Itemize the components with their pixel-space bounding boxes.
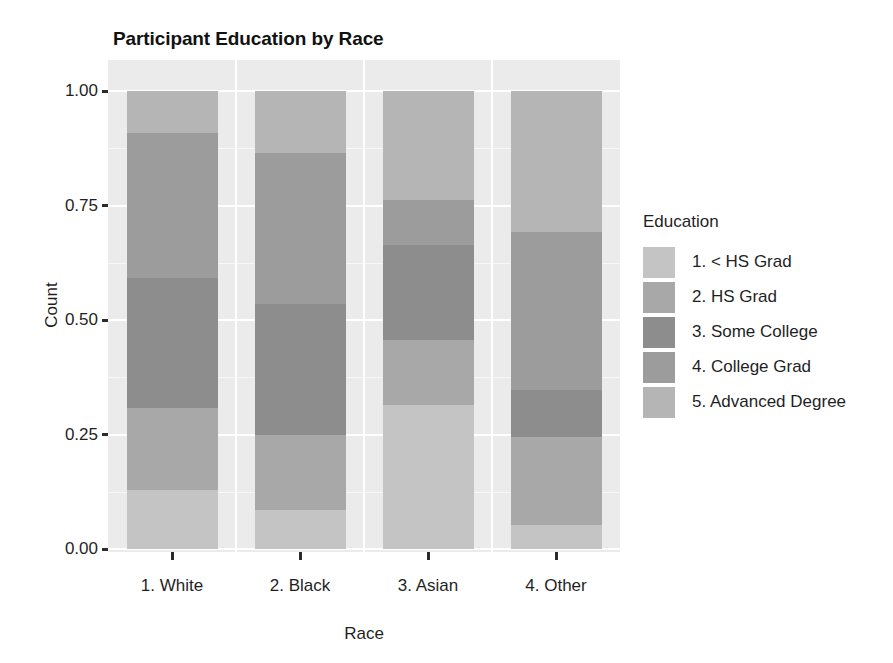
legend-swatch [643, 352, 675, 383]
legend-swatch [643, 247, 675, 278]
bar-stack[interactable] [511, 91, 602, 549]
legend-item[interactable]: 3. Some College [643, 316, 883, 348]
bar-segment[interactable] [127, 490, 218, 549]
y-tick-label: 1.00 [38, 82, 98, 99]
x-tick-mark [171, 552, 174, 560]
gridline-vertical [235, 60, 237, 552]
bar-segment[interactable] [511, 525, 602, 549]
legend-swatch [643, 387, 675, 418]
y-tick-label: 0.50 [38, 311, 98, 328]
bar-segment[interactable] [255, 510, 346, 549]
bar-segment[interactable] [127, 408, 218, 490]
bar-segment[interactable] [127, 278, 218, 408]
bar-stack[interactable] [255, 91, 346, 549]
y-axis-title: Count [42, 245, 62, 365]
bar-segment[interactable] [511, 232, 602, 390]
x-tick-label: 3. Asian [358, 576, 498, 596]
plot-area [108, 60, 620, 552]
bar-segment[interactable] [511, 437, 602, 525]
bar-segment[interactable] [383, 91, 474, 200]
legend-item[interactable]: 1. < HS Grad [643, 246, 883, 278]
bar-segment[interactable] [383, 200, 474, 245]
bar-segment[interactable] [255, 153, 346, 304]
x-axis-title: Race [108, 624, 620, 644]
legend-label: 3. Some College [692, 322, 818, 342]
bar-segment[interactable] [511, 390, 602, 437]
legend-swatch [643, 317, 675, 348]
bar-segment[interactable] [255, 304, 346, 435]
gridline-vertical [491, 60, 493, 552]
bar-segment[interactable] [383, 405, 474, 549]
bar-segment[interactable] [255, 435, 346, 510]
y-tick-label: 0.00 [38, 540, 98, 557]
x-tick-label: 1. White [102, 576, 242, 596]
chart-figure: Participant Education by Race Count Race… [0, 0, 893, 663]
legend-label: 2. HS Grad [692, 287, 777, 307]
legend-label: 1. < HS Grad [692, 252, 792, 272]
bar-segment[interactable] [127, 91, 218, 133]
y-tick-label: 0.75 [38, 197, 98, 214]
legend-item[interactable]: 4. College Grad [643, 351, 883, 383]
bar-segment[interactable] [127, 133, 218, 278]
bar-segment[interactable] [383, 340, 474, 405]
bar-segment[interactable] [383, 245, 474, 340]
bar-stack[interactable] [383, 91, 474, 549]
legend-label: 4. College Grad [692, 357, 811, 377]
page-title: Participant Education by Race [113, 28, 384, 50]
legend-swatch [643, 282, 675, 313]
legend-item[interactable]: 5. Advanced Degree [643, 386, 883, 418]
x-tick-mark [555, 552, 558, 560]
legend-title: Education [643, 212, 883, 232]
legend: Education 1. < HS Grad2. HS Grad3. Some … [643, 212, 883, 421]
legend-items: 1. < HS Grad2. HS Grad3. Some College4. … [643, 246, 883, 418]
x-tick-label: 4. Other [486, 576, 626, 596]
bar-segment[interactable] [255, 91, 346, 153]
bar-segment[interactable] [511, 91, 602, 232]
bar-stack[interactable] [127, 91, 218, 549]
legend-item[interactable]: 2. HS Grad [643, 281, 883, 313]
x-tick-mark [427, 552, 430, 560]
legend-label: 5. Advanced Degree [692, 392, 846, 412]
gridline-vertical [363, 60, 365, 552]
x-tick-label: 2. Black [230, 576, 370, 596]
y-tick-label: 0.25 [38, 426, 98, 443]
x-tick-mark [299, 552, 302, 560]
